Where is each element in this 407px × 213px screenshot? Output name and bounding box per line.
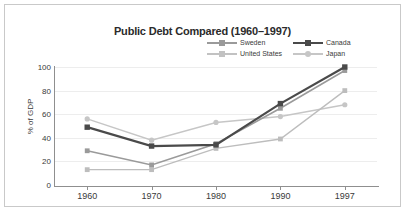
data-point-sweden [278,106,283,111]
data-point-japan [278,114,283,119]
legend-item-united-states: United States [207,48,291,59]
legend-item-sweden: Sweden [207,37,291,48]
legend-label: United States [240,49,282,58]
x-tick-label: 1990 [260,191,300,201]
x-tick [280,186,281,190]
data-point-sweden [149,163,154,168]
x-tick [216,186,217,190]
chart-frame: Public Debt Compared (1960–1997) SwedenC… [4,4,401,207]
y-tick-label: 0 [25,181,51,190]
data-point-canada [278,101,283,106]
data-point-japan [342,102,347,107]
x-tick-label: 1980 [196,191,236,201]
data-point-united-states [149,167,154,172]
data-point-canada [213,142,218,147]
data-point-japan [149,138,154,143]
data-point-united-states [85,167,90,172]
x-tick [87,186,88,190]
x-tick [152,186,153,190]
legend-item-canada: Canada [293,37,377,48]
x-tick [345,186,346,190]
legend-swatch-icon [207,49,237,58]
chart-legend: SwedenCanadaUnited StatesJapan [207,37,387,59]
y-tick-label: 20 [25,157,51,166]
chart-title: Public Debt Compared (1960–1997) [11,25,394,37]
plot-area [55,67,377,185]
x-tick-label: 1960 [67,191,107,201]
legend-swatch-icon [293,38,323,47]
y-tick-label: 100 [25,63,51,72]
chart-canvas: Public Debt Compared (1960–1997) SwedenC… [11,11,394,200]
data-point-japan [85,116,90,121]
legend-label: Sweden [240,38,265,47]
data-point-united-states [342,88,347,93]
data-point-canada [342,64,347,69]
series-line-canada [87,67,345,146]
data-point-canada [85,124,90,129]
data-point-japan [213,120,218,125]
legend-swatch-icon [207,38,237,47]
legend-item-japan: Japan [293,48,377,59]
series-line-united-states [87,91,345,170]
legend-label: Canada [326,38,351,47]
legend-label: Japan [326,49,345,58]
x-tick-label: 1997 [325,191,365,201]
data-point-united-states [278,137,283,142]
x-tick-label: 1970 [132,191,172,201]
series-lines [55,67,377,185]
data-point-sweden [85,148,90,153]
legend-swatch-icon [293,49,323,58]
y-axis-title: % of GDP [26,94,35,140]
data-point-canada [149,143,154,148]
